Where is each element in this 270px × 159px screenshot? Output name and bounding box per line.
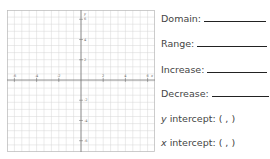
range-label: Range:: [161, 38, 194, 49]
range-field[interactable]: Range:: [161, 38, 267, 49]
increase-field[interactable]: Increase:: [161, 64, 267, 75]
svg-text:-2: -2: [84, 98, 88, 102]
svg-text:y: y: [83, 12, 87, 16]
svg-text:6: 6: [146, 74, 148, 78]
domain-field[interactable]: Domain:: [161, 13, 266, 24]
svg-text:x: x: [150, 74, 154, 78]
coordinate-grid: -8-6-4-224688642-2-4-6-8xy: [7, 10, 155, 152]
svg-text:2: 2: [102, 74, 104, 78]
svg-text:-4: -4: [84, 119, 88, 123]
increase-blank[interactable]: [207, 71, 267, 73]
x-variable: x: [161, 137, 167, 148]
domain-blank[interactable]: [204, 20, 266, 22]
svg-text:6: 6: [84, 17, 86, 21]
y-variable: y: [161, 113, 167, 124]
svg-text:-4: -4: [35, 74, 39, 78]
svg-text:2: 2: [84, 58, 86, 62]
x-intercept-field[interactable]: x intercept: ( , ): [161, 137, 235, 148]
svg-text:-6: -6: [13, 74, 17, 78]
x-intercept-label: intercept: ( , ): [170, 137, 235, 148]
svg-text:-2: -2: [57, 74, 61, 78]
y-intercept-label: intercept: ( , ): [170, 113, 235, 124]
decrease-label: Decrease:: [161, 88, 209, 99]
increase-label: Increase:: [161, 64, 204, 75]
decrease-blank[interactable]: [212, 95, 269, 97]
y-intercept-field[interactable]: y intercept: ( , ): [161, 113, 235, 124]
domain-label: Domain:: [161, 13, 201, 24]
decrease-field[interactable]: Decrease:: [161, 88, 269, 99]
svg-text:4: 4: [124, 74, 127, 78]
svg-text:-6: -6: [84, 139, 88, 143]
range-blank[interactable]: [197, 45, 267, 47]
